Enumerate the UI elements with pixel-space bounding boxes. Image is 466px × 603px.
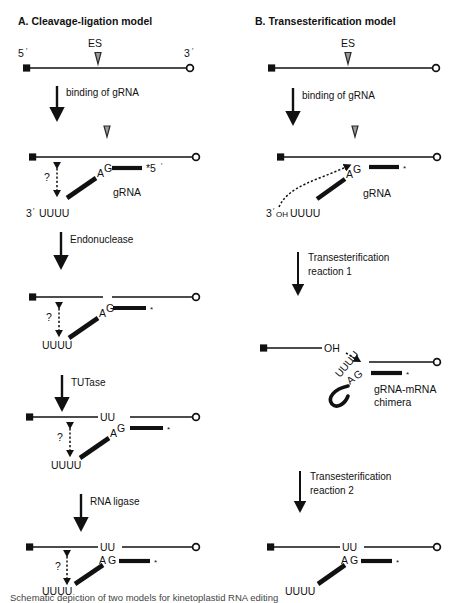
label-grna: gRNA bbox=[113, 186, 141, 198]
mrna-3prime-cap-icon bbox=[193, 294, 200, 301]
label-u-tail: UUUU bbox=[42, 339, 72, 351]
label-u-tail: UUUU bbox=[39, 207, 69, 219]
step-label-line2: reaction 1 bbox=[308, 266, 352, 277]
label-anchor-a: A bbox=[346, 168, 353, 180]
grna-u-tail-stem bbox=[67, 178, 96, 198]
label-grna-5prime-mark: ′ bbox=[161, 162, 163, 169]
label-5-prime: 5 bbox=[18, 47, 24, 59]
label-u-tail-3prime: 3 bbox=[266, 207, 272, 219]
mrna-5prime-cap-icon bbox=[277, 153, 284, 160]
label-asterisk: * bbox=[150, 305, 153, 314]
grna-u-tail-stem bbox=[75, 565, 103, 584]
step-label-line2: reaction 2 bbox=[310, 485, 354, 496]
step-label: binding of gRNA bbox=[302, 90, 375, 101]
label-chimera-line1: gRNA-mRNA bbox=[374, 383, 436, 395]
panel-b-step-transesterification-1: Transesterification reaction 1 bbox=[298, 252, 389, 286]
mrna-5prime-cap-icon bbox=[268, 64, 275, 71]
step-label-line1: Transesterification bbox=[308, 252, 389, 263]
label-anchor-g: G bbox=[108, 554, 116, 566]
panel-a-structure-grna-bound-mrna: A G *5 ′ gRNA 3 ′ UUUU ? bbox=[26, 126, 199, 219]
grna-u-tail-stem bbox=[317, 179, 345, 199]
label-anchor-g: G bbox=[350, 554, 358, 566]
mrna-3prime-cap-icon bbox=[434, 359, 441, 366]
panel-b-structure-grna-bound-mrna: * A G gRNA 3 ′ OH UUUU bbox=[266, 126, 440, 219]
mrna-5prime-cap-icon bbox=[23, 64, 30, 71]
figure-caption: Schematic depiction of two models for ki… bbox=[10, 592, 278, 603]
label-anchor-a: A bbox=[99, 307, 106, 319]
grna-u-tail-stem bbox=[318, 565, 345, 584]
label-anchor-g: G bbox=[353, 163, 361, 175]
step-label: RNA ligase bbox=[90, 496, 140, 507]
panel-b-structure-pre-edited-mrna: ES bbox=[268, 37, 439, 72]
mrna-5prime-cap-icon bbox=[260, 344, 267, 351]
step-label: binding of gRNA bbox=[66, 87, 139, 98]
label-u-tail-3prime-mark: ′ bbox=[33, 207, 35, 214]
mrna-3prime-cap-icon bbox=[433, 65, 440, 72]
mrna-3prime-cap-icon bbox=[193, 544, 200, 551]
label-u-tail: UUUU bbox=[51, 459, 81, 471]
panel-a-step-endonuclease: Endonuclease bbox=[61, 232, 134, 258]
label-anchor-a: A bbox=[110, 427, 117, 439]
label-question: ? bbox=[46, 311, 52, 323]
label-5-prime-mark: ′ bbox=[26, 47, 28, 54]
panel-a-structure-cleaved-mrna: * A G UUUU ? bbox=[29, 293, 199, 351]
panel-b-step-transesterification-2: Transesterification reaction 2 bbox=[300, 471, 391, 503]
label-u-tail: UUUU bbox=[285, 585, 315, 597]
panel-b-step-binding-of-grna: binding of gRNA bbox=[293, 88, 375, 114]
panel-a-title: A. Cleavage-ligation model bbox=[18, 15, 152, 27]
grna-u-tail-stem bbox=[69, 318, 98, 338]
panel-a-step-rna-ligase: RNA ligase bbox=[81, 494, 140, 520]
panel-b-title: B. Transesterification model bbox=[255, 15, 396, 27]
label-u-tail: UUUU bbox=[290, 207, 320, 219]
label-anchor-g: G bbox=[104, 162, 112, 174]
mrna-5prime-cap-icon bbox=[267, 543, 274, 550]
label-editing-site: ES bbox=[341, 37, 355, 49]
step-label: TUTase bbox=[71, 377, 106, 388]
panel-a-step-binding-of-grna: binding of gRNA bbox=[57, 86, 139, 110]
label-question: ? bbox=[55, 560, 61, 572]
label-u-tail-3prime: 3 bbox=[26, 207, 32, 219]
label-asterisk: * bbox=[403, 164, 406, 173]
label-hydroxyl: OH bbox=[324, 342, 340, 354]
editing-site-triangle-icon bbox=[352, 126, 358, 137]
label-anchor-a: A bbox=[341, 554, 348, 566]
label-anchor-a: A bbox=[97, 167, 104, 179]
label-question: ? bbox=[57, 431, 63, 443]
panel-a: A. Cleavage-ligation model 5 ′ 3 ′ ES bi… bbox=[18, 15, 199, 597]
mrna-5prime-cap-icon bbox=[29, 293, 36, 300]
editing-site-triangle-icon bbox=[95, 53, 101, 65]
panel-b-structure-edited-mrna: UU A G * UUUU bbox=[267, 541, 440, 597]
mrna-3prime-cap-icon bbox=[187, 65, 194, 72]
grna-u-tail-stem bbox=[80, 438, 109, 458]
label-asterisk: * bbox=[396, 558, 399, 567]
panel-a-structure-uridylated-mrna: UU * A G UUUU ? bbox=[26, 411, 199, 471]
label-grna-5prime: *5 bbox=[146, 162, 156, 174]
mrna-3prime-cap-icon bbox=[434, 544, 441, 551]
panel-a-step-tutase: TUTase bbox=[62, 375, 106, 400]
label-asterisk: * bbox=[406, 370, 409, 379]
label-editing-site: ES bbox=[88, 37, 102, 49]
chimera-loop bbox=[330, 386, 348, 406]
label-anchor-a: A bbox=[99, 554, 106, 566]
label-chimera-line2: chimera bbox=[374, 396, 412, 408]
step-label: Endonuclease bbox=[70, 234, 134, 245]
panel-a-structure-ligated-edited-mrna: UU A G * UUUU ? bbox=[26, 541, 199, 597]
label-3-prime-mark: ′ bbox=[192, 47, 194, 54]
rna-editing-models-figure: A. Cleavage-ligation model 5 ′ 3 ′ ES bi… bbox=[0, 0, 466, 603]
label-asterisk: * bbox=[154, 558, 157, 567]
panel-b-structure-grna-mrna-chimera: OH * A G UUUU gRNA-mRNA chimera bbox=[260, 342, 440, 408]
mrna-5prime-cap-icon bbox=[26, 413, 33, 420]
label-grna: gRNA bbox=[363, 187, 391, 199]
label-u-tail-hydroxyl: OH bbox=[276, 210, 288, 219]
mrna-3prime-cap-icon bbox=[193, 154, 200, 161]
mrna-5prime-cap-icon bbox=[29, 153, 36, 160]
label-anchor-g: G bbox=[117, 422, 125, 434]
mrna-5prime-cap-icon bbox=[26, 543, 33, 550]
label-question: ? bbox=[44, 171, 50, 183]
label-u-tail-3prime-mark: ′ bbox=[273, 207, 275, 214]
panel-a-structure-pre-edited-mrna: 5 ′ 3 ′ ES bbox=[18, 37, 194, 72]
label-added-u: UU bbox=[342, 541, 357, 553]
label-added-u: UU bbox=[100, 411, 115, 423]
label-anchor-g: G bbox=[106, 302, 114, 314]
mrna-3prime-cap-icon bbox=[193, 414, 200, 421]
